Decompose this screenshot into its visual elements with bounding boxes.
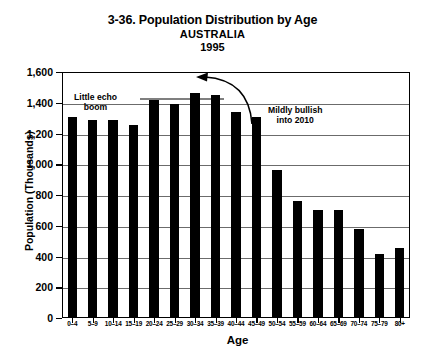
- x-axis-tick-label: 25–29: [166, 320, 183, 327]
- bar: [149, 100, 158, 318]
- annotation-little-echo-boom-line2: boom: [84, 102, 107, 112]
- annotation-mildly-bullish: Mildly bullish into 2010: [268, 106, 322, 125]
- x-axis-tick-label: 30–34: [187, 320, 204, 327]
- y-axis-tick-label: 1,400: [0, 97, 53, 109]
- bar: [313, 210, 322, 318]
- bar: [108, 120, 117, 318]
- bar: [272, 170, 281, 318]
- x-axis-tick-label: 15–19: [125, 320, 142, 327]
- y-axis-tick-label: 1,200: [0, 128, 53, 140]
- x-axis-tick-label: 0–4: [67, 320, 77, 327]
- bar: [252, 117, 261, 318]
- bar: [68, 117, 77, 318]
- y-axis-tick-label: 0: [0, 312, 53, 324]
- x-axis-tick-label: 60–64: [309, 320, 326, 327]
- population-distribution-chart: 3-36. Population Distribution by Age AUS…: [0, 0, 425, 360]
- x-axis-tick-label: 20–24: [146, 320, 163, 327]
- x-axis-tick-label: 45–49: [248, 320, 265, 327]
- y-axis-tick-label: 1,600: [0, 66, 53, 78]
- bar: [375, 254, 384, 318]
- bar: [170, 104, 179, 318]
- x-axis-tick-label: 80+: [395, 320, 405, 327]
- y-axis-tick: [56, 318, 62, 319]
- annotation-mildly-bullish-line1: Mildly bullish: [268, 105, 322, 115]
- chart-title-block: 3-36. Population Distribution by Age AUS…: [0, 14, 425, 54]
- x-axis-tick-label: 55–59: [289, 320, 306, 327]
- annotation-little-echo-boom-line1: Little echo: [74, 92, 117, 102]
- y-axis-tick-label: 200: [0, 281, 53, 293]
- page-title: 3-36. Population Distribution by Age: [0, 14, 425, 28]
- x-axis-tick-label: 40–44: [228, 320, 245, 327]
- bar: [395, 248, 404, 318]
- x-axis-title: Age: [60, 334, 415, 346]
- bar: [354, 229, 363, 318]
- y-axis-tick-label: 600: [0, 220, 53, 232]
- bar: [334, 210, 343, 318]
- bar: [190, 93, 199, 318]
- x-axis-tick-label: 10–14: [105, 320, 122, 327]
- bar: [293, 201, 302, 318]
- y-axis-tick-label: 400: [0, 251, 53, 263]
- x-axis-tick-label: 75–79: [371, 320, 388, 327]
- x-axis-tick-label: 50–54: [269, 320, 286, 327]
- chart-subtitle: AUSTRALIA: [0, 29, 425, 41]
- x-axis-tick-label: 65–69: [330, 320, 347, 327]
- bar: [129, 125, 138, 318]
- x-axis-tick-label: 35–39: [207, 320, 224, 327]
- annotation-little-echo-boom: Little echo boom: [74, 93, 117, 112]
- annotation-mildly-bullish-line2: into 2010: [277, 115, 314, 125]
- bar: [211, 95, 220, 318]
- bar: [88, 120, 97, 318]
- chart-year: 1995: [0, 42, 425, 54]
- y-axis-tick-label: 1,000: [0, 158, 53, 170]
- bar: [231, 112, 240, 318]
- x-axis-tick-label: 5–9: [88, 320, 98, 327]
- y-axis-tick-label: 800: [0, 189, 53, 201]
- x-axis-tick-label: 70–74: [350, 320, 367, 327]
